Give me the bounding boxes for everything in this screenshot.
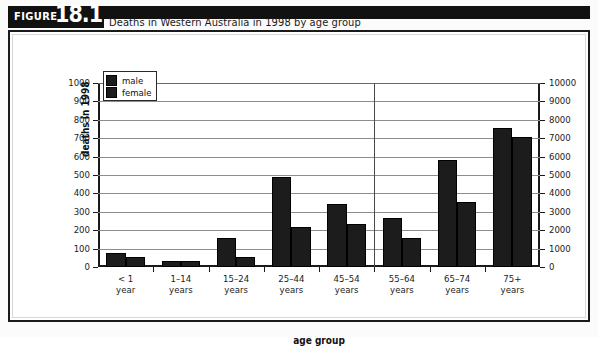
- chart-legend: male female: [103, 71, 157, 101]
- bar-group: [493, 83, 532, 267]
- x-axis-tick: [319, 267, 320, 272]
- bar-male: [493, 128, 512, 267]
- x-axis-tick: [430, 267, 431, 272]
- right-axis-tick: [540, 193, 545, 194]
- bar-group: [162, 83, 201, 267]
- x-axis-tick: [153, 267, 154, 272]
- bar-female: [181, 261, 200, 267]
- bar-male: [327, 204, 346, 267]
- x-axis-tick: [264, 267, 265, 272]
- bar-female: [291, 227, 310, 267]
- legend-label-male: male: [122, 75, 143, 86]
- left-axis-tick-label: 0: [46, 262, 90, 271]
- legend-item-male: male: [106, 74, 151, 86]
- bar-group: [327, 83, 366, 267]
- figure-label: FIGURE: [14, 10, 57, 23]
- left-axis-tick-label: 300: [46, 207, 90, 216]
- right-axis-tick: [540, 120, 545, 121]
- figure-number: 18.1: [55, 3, 102, 26]
- left-axis-tick: [93, 212, 98, 213]
- right-axis-tick-label: 0: [549, 262, 593, 271]
- figure-title: Deaths in Western Australia in 1998 by a…: [109, 16, 361, 29]
- chart-panel: 10009008007006005004003002001000 1000090…: [8, 30, 590, 322]
- bar-male: [438, 160, 457, 267]
- right-axis-tick-label: 7000: [549, 133, 593, 142]
- right-axis-tick: [540, 212, 545, 213]
- bar-male: [272, 177, 291, 267]
- figure-number-badge: FIGURE 18.1: [8, 6, 104, 28]
- bar-male: [217, 238, 236, 267]
- right-axis-tick-label: 9000: [549, 96, 593, 105]
- bar-female: [347, 224, 366, 267]
- x-axis-tick-label: 55–64years: [374, 273, 429, 295]
- right-axis-tick: [540, 138, 545, 139]
- bar-male: [383, 218, 402, 267]
- bar-group: [272, 83, 311, 267]
- left-axis-tick: [93, 230, 98, 231]
- bar-group: [217, 83, 256, 267]
- bar-female: [512, 137, 531, 267]
- legend-swatch-female: [106, 87, 117, 98]
- left-axis-tick-label: 500: [46, 170, 90, 179]
- left-axis-tick: [93, 83, 98, 84]
- legend-swatch-male: [106, 75, 117, 86]
- x-axis-tick: [485, 267, 486, 272]
- left-axis-tick: [93, 249, 98, 250]
- x-axis-tick-label: 75+years: [485, 273, 540, 295]
- right-axis-tick: [540, 157, 545, 158]
- y-axis-title: deaths in 1998: [80, 82, 91, 157]
- left-axis-tick: [93, 193, 98, 194]
- left-axis-tick: [93, 157, 98, 158]
- left-axis-tick: [93, 175, 98, 176]
- right-axis-tick: [540, 230, 545, 231]
- bar-female: [126, 257, 145, 267]
- x-axis-tick-label: 25–44years: [264, 273, 319, 295]
- left-axis-tick: [93, 101, 98, 102]
- bar-group: [438, 83, 477, 267]
- right-axis-tick-label: 2000: [549, 225, 593, 234]
- x-axis-tick-label: 15–24years: [209, 273, 264, 295]
- x-axis-tick-label: 1–14years: [153, 273, 208, 295]
- x-axis-tick-label: 45–54years: [319, 273, 374, 295]
- bar-female: [402, 238, 421, 267]
- x-axis-title: age group: [98, 335, 540, 346]
- left-axis-tick: [93, 120, 98, 121]
- right-axis-tick: [540, 101, 545, 102]
- x-axis-tick-label: < 1year: [98, 273, 153, 295]
- right-axis-tick-label: 8000: [549, 115, 593, 124]
- bar-group: [106, 83, 145, 267]
- right-axis-tick: [540, 83, 545, 84]
- x-axis-tick: [209, 267, 210, 272]
- left-axis-tick: [93, 138, 98, 139]
- left-axis-tick: [93, 267, 98, 268]
- right-axis-tick-label: 5000: [549, 170, 593, 179]
- right-axis-tick-label: 4000: [549, 188, 593, 197]
- right-axis-tick-label: 1000: [549, 244, 593, 253]
- right-axis-tick-label: 3000: [549, 207, 593, 216]
- right-axis-tick-label: 10000: [549, 78, 593, 87]
- right-axis-tick: [540, 175, 545, 176]
- bar-male: [162, 261, 181, 267]
- legend-label-female: female: [122, 87, 151, 98]
- x-axis-tick-label: 65–74years: [430, 273, 485, 295]
- left-axis-tick-label: 400: [46, 188, 90, 197]
- category-divider-line: [374, 83, 375, 267]
- left-axis-tick-label: 200: [46, 225, 90, 234]
- plot-area: 10009008007006005004003002001000 1000090…: [98, 83, 540, 267]
- bar-female: [457, 202, 476, 267]
- bar-female: [236, 257, 255, 267]
- right-axis-tick: [540, 267, 545, 268]
- figure-header: FIGURE 18.1 Deaths in Western Australia …: [8, 6, 590, 28]
- legend-item-female: female: [106, 86, 151, 98]
- right-axis-tick: [540, 249, 545, 250]
- bar-group: [383, 83, 422, 267]
- bar-male: [106, 253, 125, 267]
- x-axis-tick: [374, 267, 375, 272]
- left-axis-tick-label: 100: [46, 244, 90, 253]
- right-axis-tick-label: 6000: [549, 152, 593, 161]
